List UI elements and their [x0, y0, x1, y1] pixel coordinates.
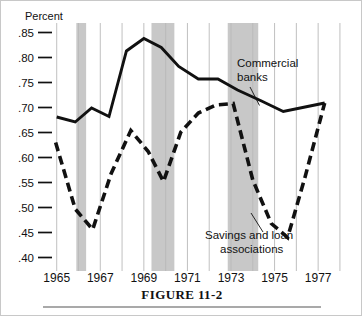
y-axis-tick-label: .50	[18, 202, 34, 214]
y-axis-tick-label: .75	[18, 77, 34, 89]
y-axis-tick-label: .70	[18, 102, 34, 114]
y-axis-tick-label: .40	[18, 252, 34, 264]
x-axis-tick-label: 1969	[131, 271, 158, 285]
annotation-savings-loan-line2: associations	[220, 243, 284, 255]
y-axis-tick-label: .60	[18, 152, 34, 164]
y-axis-tick-label: .45	[18, 227, 34, 239]
annotation-commercial-banks-line1: Commercial	[237, 57, 298, 69]
annotation-savings-loan-line1: Savings and loan	[205, 229, 293, 241]
x-axis-tick-label: 1965	[43, 271, 70, 285]
chart-background	[1, 1, 362, 316]
y-axis-tick-label: .85	[18, 27, 34, 39]
annotation-commercial-banks-line2: banks	[237, 71, 268, 83]
x-axis-tick-label: 1971	[174, 271, 201, 285]
recession-band	[151, 23, 174, 271]
figure-container: .85.80.75.70.65.60.55.50.45.40 196519671…	[0, 0, 362, 316]
recession-band	[76, 23, 86, 271]
figure-caption: FIGURE 11-2	[141, 287, 222, 302]
y-axis-tick-label: .55	[18, 177, 34, 189]
x-axis-tick-label: 1975	[261, 271, 288, 285]
y-axis-title: Percent	[25, 10, 63, 22]
x-axis-tick-label: 1967	[87, 271, 114, 285]
chart-svg: .85.80.75.70.65.60.55.50.45.40 196519671…	[1, 1, 362, 316]
y-axis-tick-label: .65	[18, 127, 34, 139]
x-axis-tick-label: 1977	[305, 271, 332, 285]
y-axis-tick-label: .80	[18, 52, 34, 64]
x-axis-tick-label: 1973	[218, 271, 245, 285]
